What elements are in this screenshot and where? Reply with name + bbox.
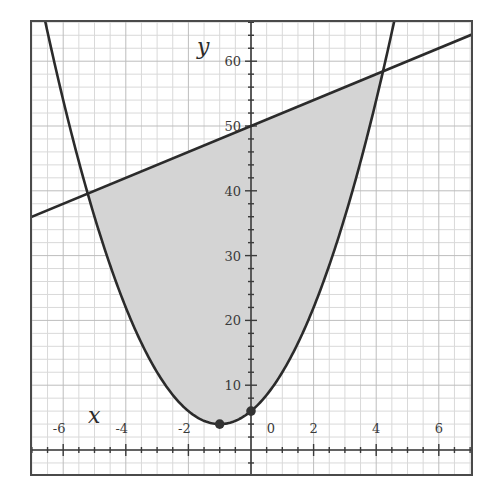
x-axis-label: x: [88, 403, 101, 428]
y-tick-label: 40: [224, 184, 241, 199]
point-vertex: [215, 419, 225, 429]
y-tick-label: 50: [224, 119, 241, 134]
y-tick-label: 10: [224, 378, 241, 393]
x-tick-label: -2: [178, 421, 191, 436]
x-tick-label: 6: [435, 421, 443, 436]
x-tick-label: 0: [267, 421, 275, 436]
x-tick-label: 2: [309, 421, 317, 436]
x-tick-label: -6: [53, 421, 66, 436]
y-axis-label: y: [196, 34, 210, 59]
y-tick-label: 20: [224, 313, 241, 328]
x-tick-label: -4: [115, 421, 128, 436]
y-tick-label: 30: [224, 249, 241, 264]
x-tick-label: 4: [372, 421, 380, 436]
plot-area: [16, 0, 486, 476]
y-tick-label: 60: [224, 54, 241, 69]
chart: -6-4-20246102030405060 x y: [0, 0, 494, 492]
point-y-intercept: [246, 406, 256, 416]
